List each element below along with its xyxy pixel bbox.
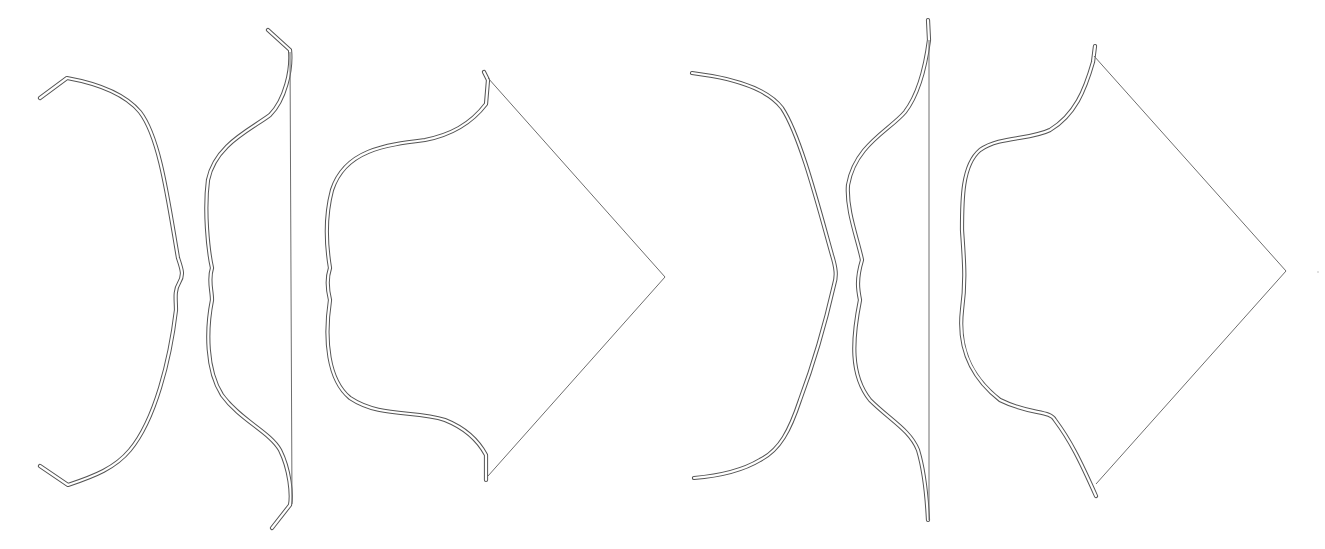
stray-dot [1317,271,1319,273]
left-set [40,30,665,528]
bow-2-braced [206,30,292,528]
bow-4-unstrung [692,73,836,478]
bow-3-full-draw [327,72,665,480]
bow-6-full-draw [961,46,1286,496]
bow-5-braced [848,20,929,520]
bow-2-string [290,52,292,504]
right-set [692,20,1286,520]
bow-3-string [488,78,665,476]
bow-6-string [1094,56,1286,484]
bow-profiles-diagram [0,0,1325,549]
bow-1-unstrung [40,78,182,485]
